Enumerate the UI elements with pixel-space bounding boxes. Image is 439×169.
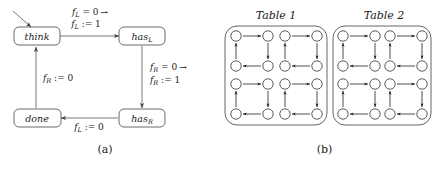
cluster-node-tr[interactable] [417, 79, 427, 89]
cluster-node-tr[interactable] [370, 31, 380, 41]
cluster-node-br[interactable] [370, 109, 380, 119]
transition-label-think-to-hasL-line1: fL = 0→ [71, 7, 109, 19]
cluster-node-bl[interactable] [280, 109, 290, 119]
panel-a-state-machine: think hasL hasR done [0, 0, 210, 169]
cluster-node-bl[interactable] [231, 109, 241, 119]
table-1-box [225, 26, 327, 125]
cluster-node-br[interactable] [417, 61, 427, 71]
table-2-box [333, 26, 431, 125]
state-node-hasR-sub: R [147, 118, 153, 126]
transition-label-hasR-to-done: fL := 0 [73, 122, 104, 134]
state-node-done-label: done [25, 113, 49, 124]
cluster-node-tr[interactable] [312, 31, 322, 41]
transition-label-done-to-think-text: fR := 0 [42, 73, 74, 85]
cluster-node-bl[interactable] [280, 61, 290, 71]
state-node-hasR[interactable]: hasR [119, 109, 165, 127]
transition-label-done-to-think: fR := 0 [42, 73, 74, 85]
cluster-node-bl[interactable] [385, 109, 395, 119]
cluster-node-bl[interactable] [338, 61, 348, 71]
cluster-node-br[interactable] [263, 61, 273, 71]
cluster-node-br[interactable] [312, 61, 322, 71]
table-1[interactable] [225, 26, 327, 125]
cluster-node-br[interactable] [312, 109, 322, 119]
state-node-hasR-base: has [131, 113, 148, 124]
cluster-node-tl[interactable] [385, 31, 395, 41]
initial-state-arrow [13, 11, 31, 27]
cluster-node-br[interactable] [370, 61, 380, 71]
panel-b-tables: Table 1 Table 2 [210, 0, 439, 169]
cluster-node-bl[interactable] [231, 61, 241, 71]
transition-label-think-to-hasL: fL = 0→ fL := 1 [70, 7, 108, 31]
cluster-node-tr[interactable] [263, 31, 273, 41]
cluster-node-tl[interactable] [338, 31, 348, 41]
cluster-node-br[interactable] [263, 109, 273, 119]
state-node-hasL-sub: L [147, 36, 152, 44]
transition-label-hasR-to-done-text: fL := 0 [73, 122, 104, 134]
state-node-done[interactable]: done [14, 109, 61, 127]
cluster-node-tr[interactable] [263, 79, 273, 89]
caption-panel-b: (b) [210, 143, 439, 156]
cluster-node-tl[interactable] [385, 79, 395, 89]
transition-label-hasL-to-hasR-line2: fR := 1 [149, 75, 180, 87]
transition-label-hasL-to-hasR-line1: fR = 0→ [149, 62, 187, 74]
figure-container: think hasL hasR done [0, 0, 439, 169]
transition-label-hasL-to-hasR: fR = 0→ fR := 1 [149, 62, 187, 87]
cluster-node-tl[interactable] [338, 79, 348, 89]
cluster-node-tr[interactable] [370, 79, 380, 89]
state-node-think[interactable]: think [14, 27, 60, 45]
state-node-hasL-base: has [132, 31, 149, 42]
cluster-node-bl[interactable] [385, 61, 395, 71]
cluster-node-tl[interactable] [280, 79, 290, 89]
caption-panel-a: (a) [0, 143, 210, 156]
state-node-think-label: think [25, 31, 50, 42]
transition-label-think-to-hasL-line2: fL := 1 [70, 19, 101, 31]
cluster-node-bl[interactable] [338, 109, 348, 119]
table-2[interactable] [333, 26, 431, 125]
cluster-node-tr[interactable] [417, 31, 427, 41]
cluster-node-tl[interactable] [231, 79, 241, 89]
state-node-hasL[interactable]: hasL [119, 27, 165, 45]
cluster-node-tr[interactable] [312, 79, 322, 89]
cluster-node-br[interactable] [417, 109, 427, 119]
cluster-node-tl[interactable] [231, 31, 241, 41]
cluster-node-tl[interactable] [280, 31, 290, 41]
